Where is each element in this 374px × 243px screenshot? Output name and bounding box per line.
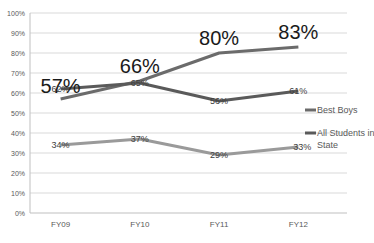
data-label: 56% [210, 96, 228, 106]
x-tick-label: FY11 [210, 220, 229, 229]
data-label: 29% [210, 150, 228, 160]
data-label: 34% [52, 140, 70, 150]
y-tick-label: 70% [11, 70, 25, 77]
x-axis-ticks: FY09FY10FY11FY12 [51, 220, 308, 229]
data-label: 80% [199, 27, 239, 49]
data-label: 83% [278, 21, 318, 43]
y-tick-label: 90% [11, 30, 25, 37]
y-tick-label: 30% [11, 150, 25, 157]
legend-label: State [317, 140, 338, 150]
y-tick-label: 80% [11, 50, 25, 57]
x-tick-label: FY12 [289, 220, 309, 229]
legend: Best BoysAll Students inState [305, 105, 374, 150]
x-tick-label: FY09 [51, 220, 71, 229]
line-chart: 0%10%20%30%40%50%60%70%80%90%100% FY09FY… [0, 0, 374, 243]
y-tick-label: 20% [11, 170, 25, 177]
data-label: 61% [289, 86, 307, 96]
y-axis-ticks: 0%10%20%30%40%50%60%70%80%90%100% [7, 10, 25, 217]
legend-label: Best Boys [317, 105, 358, 115]
x-tick-label: FY10 [130, 220, 150, 229]
y-tick-label: 100% [7, 10, 25, 17]
y-tick-label: 10% [11, 190, 25, 197]
data-label: 65% [131, 78, 149, 88]
y-tick-label: 0% [15, 210, 25, 217]
data-label: 62% [52, 84, 70, 94]
y-tick-label: 40% [11, 130, 25, 137]
data-label: 33% [293, 142, 311, 152]
data-label: 66% [120, 55, 160, 77]
data-label: 37% [131, 134, 149, 144]
y-tick-label: 50% [11, 110, 25, 117]
legend-label: All Students in [317, 128, 374, 138]
gridlines [30, 13, 347, 213]
series-lines [61, 47, 299, 155]
y-tick-label: 60% [11, 90, 25, 97]
